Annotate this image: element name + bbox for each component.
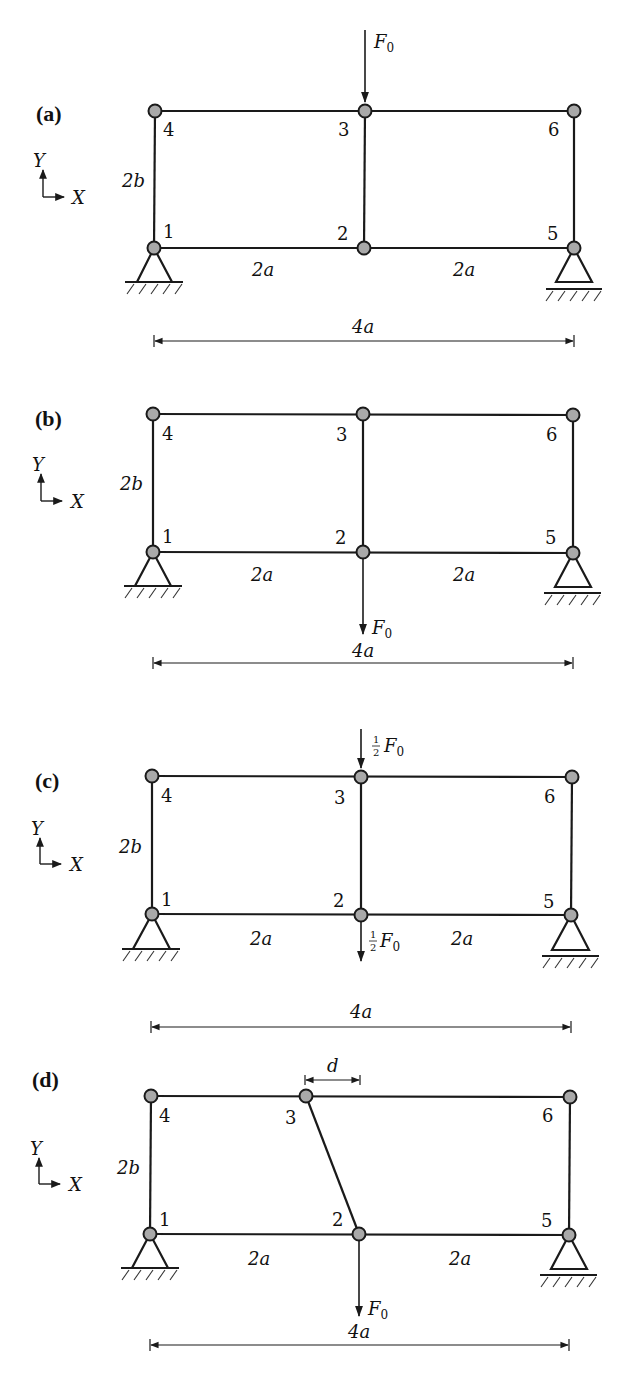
svg-text:4: 4	[161, 785, 172, 806]
node-labels: 4 3 6 1 2 5	[159, 1105, 553, 1231]
node-labels: 4 3 6 1 2 5	[161, 785, 555, 912]
svg-text:F0: F0	[383, 735, 404, 759]
offset-dimension: d	[305, 1055, 360, 1085]
axes-icon: Y X	[30, 1138, 83, 1195]
node-labels: 4 3 6 1 2 5	[163, 119, 559, 244]
support-roller-right	[546, 248, 602, 301]
svg-text:5: 5	[543, 891, 554, 912]
support-roller-right	[542, 915, 599, 968]
panel-a: (a) Y X 4 3	[33, 30, 602, 347]
total-dimension: 4a	[150, 1321, 569, 1351]
bay-left-label: 2a	[249, 928, 272, 949]
members	[152, 776, 572, 915]
svg-text:F0: F0	[367, 1298, 388, 1322]
load-arrow: F0	[359, 1241, 388, 1322]
svg-text:5: 5	[545, 527, 556, 548]
svg-text:d: d	[327, 1055, 339, 1076]
panel-label: (a)	[36, 101, 62, 126]
svg-text:4a: 4a	[351, 640, 374, 661]
svg-text:2: 2	[337, 223, 348, 244]
bay-left-label: 2a	[250, 564, 273, 585]
bay-left-label: 2a	[251, 259, 274, 280]
load-arrow: F0	[365, 30, 394, 102]
panel-label: (c)	[35, 768, 59, 793]
total-dimension: 4a	[153, 640, 573, 669]
svg-text:5: 5	[541, 1210, 552, 1231]
panel-label: (d)	[32, 1067, 59, 1092]
svg-text:X: X	[68, 854, 84, 875]
panel-b: (b) Y X 4 3	[32, 406, 601, 669]
svg-text:6: 6	[542, 1105, 553, 1126]
svg-text:3: 3	[338, 119, 349, 140]
total-dimension: 4a	[154, 316, 574, 347]
svg-text:2: 2	[335, 527, 346, 548]
svg-text:1: 1	[370, 929, 376, 940]
svg-text:Y: Y	[30, 1138, 44, 1159]
height-label: 2b	[116, 1157, 140, 1178]
node-labels: 4 3 6 1 2 5	[162, 423, 557, 548]
svg-text:2: 2	[332, 1209, 343, 1230]
svg-text:1: 1	[163, 221, 174, 242]
height-label: 2b	[121, 170, 145, 191]
load-arrow-bottom: 1 2 F0	[361, 922, 400, 961]
svg-text:4: 4	[162, 423, 173, 444]
support-roller-right	[540, 1235, 597, 1287]
svg-text:1: 1	[161, 889, 172, 910]
members	[154, 111, 574, 248]
svg-text:6: 6	[548, 119, 559, 140]
load-arrow-top: 1 2 F0	[361, 729, 404, 768]
truss-figure: (a) Y X 4 3	[0, 0, 629, 1384]
load-arrow: F0	[363, 559, 392, 641]
bay-right-label: 2a	[450, 928, 473, 949]
svg-text:5: 5	[547, 223, 558, 244]
panel-c: (c) Y X 4 3	[31, 729, 599, 1033]
svg-text:4a: 4a	[349, 1001, 372, 1022]
axes-icon: Y X	[32, 454, 85, 512]
svg-text:4: 4	[159, 1105, 170, 1126]
svg-text:2: 2	[370, 942, 376, 953]
height-label: 2b	[119, 473, 143, 494]
svg-text:1: 1	[373, 734, 379, 745]
svg-text:Y: Y	[32, 454, 46, 475]
panel-label: (b)	[35, 406, 62, 431]
panel-d: (d) Y X 4 3	[30, 1055, 597, 1351]
svg-text:F0: F0	[373, 31, 394, 55]
svg-text:F0: F0	[379, 930, 400, 954]
svg-text:4: 4	[163, 119, 174, 140]
bay-right-label: 2a	[452, 259, 475, 280]
svg-text:6: 6	[546, 424, 557, 445]
total-dimension: 4a	[151, 1001, 571, 1033]
axes-icon: Y X	[33, 150, 86, 208]
svg-text:4a: 4a	[347, 1321, 370, 1342]
members	[153, 414, 573, 553]
svg-text:Y: Y	[31, 818, 45, 839]
svg-text:1: 1	[159, 1209, 170, 1230]
axes-icon: Y X	[31, 818, 84, 875]
svg-text:3: 3	[334, 787, 345, 808]
bay-right-label: 2a	[448, 1248, 471, 1269]
bay-left-label: 2a	[247, 1248, 270, 1269]
svg-text:3: 3	[285, 1107, 296, 1128]
height-label: 2b	[118, 836, 142, 857]
members	[150, 1096, 570, 1235]
svg-text:3: 3	[336, 424, 347, 445]
svg-text:6: 6	[544, 786, 555, 807]
svg-text:Y: Y	[33, 150, 47, 171]
svg-text:2: 2	[373, 747, 379, 758]
svg-text:X: X	[70, 187, 86, 208]
svg-text:X: X	[67, 1174, 83, 1195]
nodes	[144, 1090, 577, 1242]
svg-text:X: X	[69, 491, 85, 512]
bay-right-label: 2a	[452, 564, 475, 585]
svg-text:F0: F0	[371, 617, 392, 641]
svg-text:4a: 4a	[351, 316, 374, 337]
support-roller-right	[544, 553, 601, 605]
svg-text:2: 2	[333, 890, 344, 911]
svg-text:1: 1	[162, 526, 173, 547]
